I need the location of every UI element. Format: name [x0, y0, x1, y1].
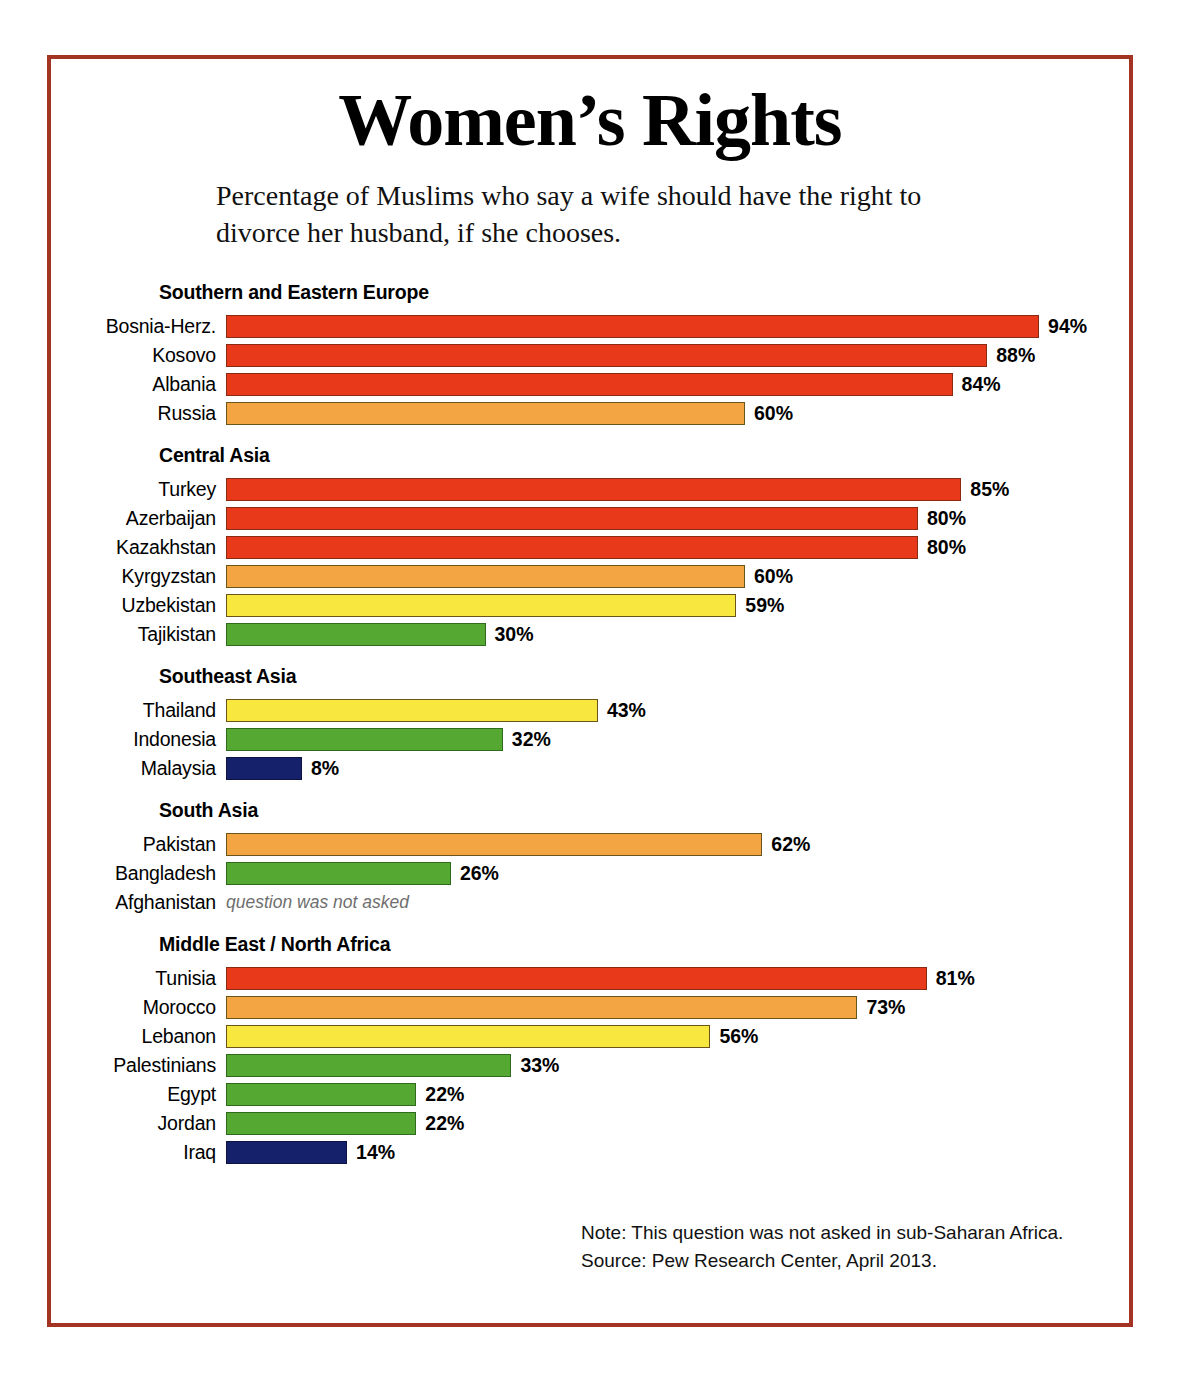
chart-bar-area: 14%	[226, 1138, 1129, 1167]
chart-row-label: Uzbekistan	[51, 594, 226, 617]
chart-bar-value: 26%	[460, 862, 499, 885]
chart-no-data-label: question was not asked	[226, 892, 409, 913]
chart-bar-value: 14%	[356, 1141, 395, 1164]
chart-bar	[226, 402, 745, 425]
chart-bar-area: 60%	[226, 562, 1129, 591]
chart-bar-area: 60%	[226, 399, 1129, 428]
chart-row-label: Jordan	[51, 1112, 226, 1135]
chart-bar-area: 22%	[226, 1109, 1129, 1138]
chart-group: Southern and Eastern EuropeBosnia-Herz.9…	[51, 281, 1129, 428]
chart-row-label: Pakistan	[51, 833, 226, 856]
chart-bar	[226, 757, 302, 780]
chart-row: Morocco73%	[51, 993, 1129, 1022]
chart-bar-value: 60%	[754, 402, 793, 425]
chart-row-label: Kosovo	[51, 344, 226, 367]
chart-row: Tajikistan30%	[51, 620, 1129, 649]
chart-bar	[226, 996, 857, 1019]
chart-bar-area: 80%	[226, 533, 1129, 562]
chart-row-label: Azerbaijan	[51, 507, 226, 530]
chart-bar-value: 56%	[719, 1025, 758, 1048]
chart-row: Bangladesh26%	[51, 859, 1129, 888]
chart-row-label: Lebanon	[51, 1025, 226, 1048]
chart-bar-area: 22%	[226, 1080, 1129, 1109]
chart-bar	[226, 967, 927, 990]
chart-bar	[226, 1054, 511, 1077]
chart-bar-value: 81%	[936, 967, 975, 990]
chart-row: Lebanon56%	[51, 1022, 1129, 1051]
chart-row-label: Tajikistan	[51, 623, 226, 646]
chart-row-label: Morocco	[51, 996, 226, 1019]
chart-row-label: Kazakhstan	[51, 536, 226, 559]
chart-row: Turkey85%	[51, 475, 1129, 504]
chart-group: South AsiaPakistan62%Bangladesh26%Afghan…	[51, 799, 1129, 917]
chart-group-title: Middle East / North Africa	[51, 933, 1129, 956]
chart-row-label: Malaysia	[51, 757, 226, 780]
chart-bar-value: 59%	[745, 594, 784, 617]
chart-bar-area: 81%	[226, 964, 1129, 993]
chart-row-label: Tunisia	[51, 967, 226, 990]
chart-group: Middle East / North AfricaTunisia81%Moro…	[51, 933, 1129, 1167]
chart-bar-area: 80%	[226, 504, 1129, 533]
chart-row-label: Russia	[51, 402, 226, 425]
chart-bar-value: 94%	[1048, 315, 1087, 338]
chart-row: Jordan22%	[51, 1109, 1129, 1138]
chart-bar-area: 85%	[226, 475, 1129, 504]
chart-row: Egypt22%	[51, 1080, 1129, 1109]
chart-bar-value: 62%	[771, 833, 810, 856]
chart-bar-value: 80%	[927, 507, 966, 530]
chart-row: Thailand43%	[51, 696, 1129, 725]
chart-row: Azerbaijan80%	[51, 504, 1129, 533]
chart-row-label: Egypt	[51, 1083, 226, 1106]
footnote-source: Source: Pew Research Center, April 2013.	[581, 1247, 1081, 1275]
chart-row-label: Albania	[51, 373, 226, 396]
chart-row: Uzbekistan59%	[51, 591, 1129, 620]
chart-row: Kyrgyzstan60%	[51, 562, 1129, 591]
page-subtitle: Percentage of Muslims who say a wife sho…	[51, 177, 1006, 251]
chart-group-title: Southern and Eastern Europe	[51, 281, 1129, 304]
bar-chart: Southern and Eastern EuropeBosnia-Herz.9…	[51, 281, 1129, 1193]
chart-row-label: Bangladesh	[51, 862, 226, 885]
chart-bar	[226, 315, 1039, 338]
chart-bar-value: 30%	[495, 623, 534, 646]
chart-bar-area: 56%	[226, 1022, 1129, 1051]
chart-bar	[226, 623, 486, 646]
chart-row: Pakistan62%	[51, 830, 1129, 859]
chart-bar	[226, 1025, 710, 1048]
chart-bar-area: 94%	[226, 312, 1129, 341]
chart-row: Kosovo88%	[51, 341, 1129, 370]
footnote-note: Note: This question was not asked in sub…	[581, 1219, 1081, 1247]
chart-bar	[226, 728, 503, 751]
chart-row-label: Afghanistan	[51, 891, 226, 914]
chart-bar	[226, 1112, 416, 1135]
chart-row-label: Indonesia	[51, 728, 226, 751]
chart-bar-area: 43%	[226, 696, 1129, 725]
chart-bar	[226, 699, 598, 722]
chart-row: Indonesia32%	[51, 725, 1129, 754]
chart-bar-value: 43%	[607, 699, 646, 722]
chart-row: Malaysia8%	[51, 754, 1129, 783]
chart-group-title: Central Asia	[51, 444, 1129, 467]
chart-bar-value: 60%	[754, 565, 793, 588]
chart-bar	[226, 344, 987, 367]
chart-group: Central AsiaTurkey85%Azerbaijan80%Kazakh…	[51, 444, 1129, 649]
chart-bar-value: 8%	[311, 757, 339, 780]
chart-row: Russia60%	[51, 399, 1129, 428]
chart-group-title: Southeast Asia	[51, 665, 1129, 688]
chart-row: Albania84%	[51, 370, 1129, 399]
chart-bar-area: 8%	[226, 754, 1129, 783]
chart-bar-value: 85%	[970, 478, 1009, 501]
chart-bar	[226, 1141, 347, 1164]
chart-bar-value: 88%	[996, 344, 1035, 367]
chart-bar-area: 32%	[226, 725, 1129, 754]
chart-bar-area: 26%	[226, 859, 1129, 888]
chart-row: Tunisia81%	[51, 964, 1129, 993]
chart-bar-area: 30%	[226, 620, 1129, 649]
chart-bar	[226, 1083, 416, 1106]
chart-bar	[226, 478, 961, 501]
chart-bar	[226, 833, 762, 856]
chart-bar-area: question was not asked	[226, 888, 1129, 917]
chart-group: Southeast AsiaThailand43%Indonesia32%Mal…	[51, 665, 1129, 783]
chart-bar-value: 22%	[425, 1112, 464, 1135]
chart-bar-value: 73%	[866, 996, 905, 1019]
footnotes: Note: This question was not asked in sub…	[51, 1219, 1129, 1274]
